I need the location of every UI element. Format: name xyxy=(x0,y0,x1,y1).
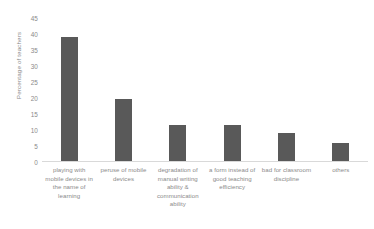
x-category-label: playing with mobile devices in the name … xyxy=(42,166,96,200)
y-tick-label: 15 xyxy=(20,111,38,118)
y-tick-label: 0 xyxy=(20,159,38,166)
x-category-label: others xyxy=(314,166,368,175)
bar-slot xyxy=(42,18,96,162)
x-category-label: a form instead of good teaching efficien… xyxy=(205,166,259,192)
bar-slot xyxy=(205,18,259,162)
y-tick-label: 45 xyxy=(20,15,38,22)
x-category-label: degradation of manual writing ability & … xyxy=(151,166,205,209)
bar-slot xyxy=(96,18,150,162)
bar-slot xyxy=(151,18,205,162)
bar[interactable] xyxy=(61,37,78,162)
bar-chart: Percentage of teachers 45403530252015105… xyxy=(0,0,374,229)
bar[interactable] xyxy=(332,143,349,162)
y-tick-label: 10 xyxy=(20,127,38,134)
bar[interactable] xyxy=(115,99,132,162)
bar-slot xyxy=(314,18,368,162)
x-category-label: peruse of mobile devices xyxy=(96,166,150,183)
x-category-label: bad for classroom discipline xyxy=(259,166,313,183)
bar-series xyxy=(42,18,368,162)
y-axis-tick-labels: 454035302520151050 xyxy=(20,0,38,229)
y-tick-label: 40 xyxy=(20,31,38,38)
plot-area xyxy=(42,18,368,162)
y-tick-label: 20 xyxy=(20,95,38,102)
bar[interactable] xyxy=(224,125,241,162)
y-tick-label: 25 xyxy=(20,79,38,86)
x-axis-category-labels: playing with mobile devices in the name … xyxy=(42,166,368,228)
bar[interactable] xyxy=(169,125,186,162)
bar[interactable] xyxy=(278,133,295,162)
y-tick-label: 35 xyxy=(20,47,38,54)
axis-baseline xyxy=(42,161,368,162)
bar-slot xyxy=(259,18,313,162)
y-tick-label: 30 xyxy=(20,63,38,70)
y-tick-label: 5 xyxy=(20,143,38,150)
